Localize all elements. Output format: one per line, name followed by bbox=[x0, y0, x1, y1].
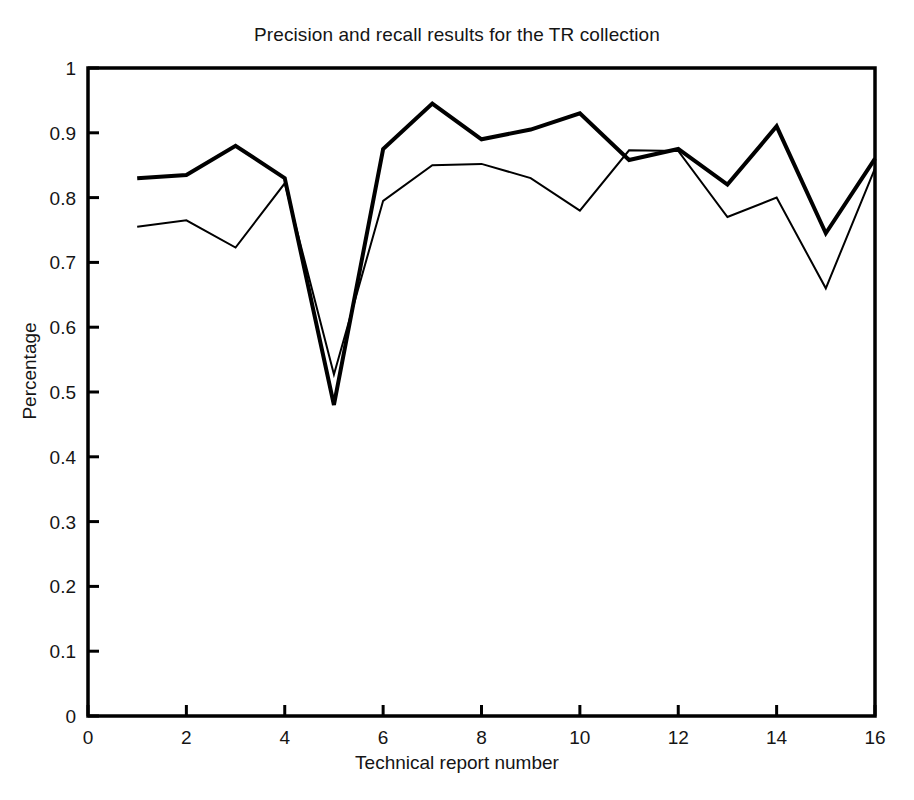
y-tick-label: 0.1 bbox=[50, 641, 76, 662]
x-tick-label: 0 bbox=[83, 727, 94, 748]
plot-area: 00.10.20.30.40.50.60.70.80.9102468101214… bbox=[0, 0, 914, 800]
y-tick-label: 0.6 bbox=[50, 317, 76, 338]
x-tick-label: 16 bbox=[864, 727, 885, 748]
y-tick-label: 0.7 bbox=[50, 252, 76, 273]
x-tick-label: 2 bbox=[181, 727, 192, 748]
axis-tick-labels: 00.10.20.30.40.50.60.70.80.9102468101214… bbox=[50, 58, 886, 748]
y-tick-label: 0.9 bbox=[50, 123, 76, 144]
y-axis-label: Percentage bbox=[19, 281, 41, 461]
series-line-recall bbox=[137, 150, 875, 374]
x-tick-label: 4 bbox=[279, 727, 290, 748]
y-tick-label: 0.4 bbox=[50, 447, 77, 468]
x-tick-label: 6 bbox=[378, 727, 389, 748]
y-tick-label: 1 bbox=[65, 58, 76, 79]
y-tick-label: 0.5 bbox=[50, 382, 76, 403]
x-tick-label: 10 bbox=[569, 727, 590, 748]
x-axis-label: Technical report number bbox=[0, 752, 914, 774]
y-tick-label: 0.2 bbox=[50, 576, 76, 597]
chart-figure: Precision and recall results for the TR … bbox=[0, 0, 914, 800]
x-tick-label: 14 bbox=[766, 727, 788, 748]
x-tick-label: 8 bbox=[476, 727, 487, 748]
y-tick-label: 0.3 bbox=[50, 512, 76, 533]
x-tick-label: 12 bbox=[668, 727, 689, 748]
data-series-group bbox=[137, 104, 875, 405]
y-tick-label: 0 bbox=[65, 706, 76, 727]
y-tick-label: 0.8 bbox=[50, 188, 76, 209]
series-line-precision bbox=[137, 104, 875, 405]
